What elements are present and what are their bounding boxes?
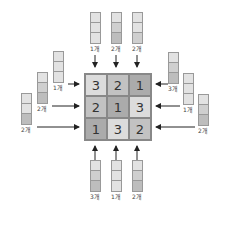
right-stack-3 bbox=[198, 94, 209, 126]
bottom-clue-1: 3개 bbox=[85, 192, 105, 201]
left-clue-2: 2개 bbox=[32, 104, 52, 113]
bottom-stack-1 bbox=[90, 160, 101, 192]
bottom-stack-3 bbox=[132, 160, 143, 192]
left-stack-2 bbox=[37, 72, 48, 104]
bottom-stack-2 bbox=[111, 160, 122, 192]
left-stack-3 bbox=[21, 93, 32, 125]
right-clue-1: 3개 bbox=[163, 84, 183, 93]
right-clue-2: 1개 bbox=[178, 105, 198, 114]
right-stack-1 bbox=[168, 52, 179, 84]
bottom-clue-2: 1개 bbox=[106, 192, 126, 201]
left-clue-1: 1개 bbox=[48, 83, 68, 92]
bottom-clue-3: 2개 bbox=[127, 192, 147, 201]
left-stack-1 bbox=[53, 51, 64, 83]
right-stack-2 bbox=[183, 73, 194, 105]
right-clue-3: 2개 bbox=[193, 126, 213, 135]
left-clue-3: 2개 bbox=[16, 125, 36, 134]
